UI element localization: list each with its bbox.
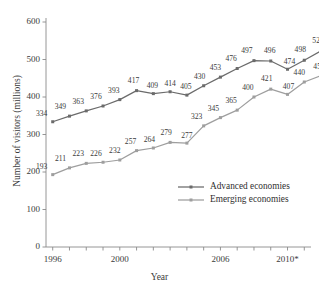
x-tick-2000: 2000 (95, 254, 145, 264)
point-label: 440 (288, 68, 310, 77)
point-label: 430 (189, 72, 211, 81)
point-label: 277 (176, 131, 198, 140)
point-label: 405 (175, 82, 197, 91)
y-tick-500: 500 (4, 54, 40, 64)
point-label: 497 (236, 46, 258, 55)
y-tick-100: 100 (4, 204, 40, 214)
point-label: 232 (104, 146, 126, 155)
x-tick-2006: 2006 (195, 254, 245, 264)
point-label: 453 (204, 63, 226, 72)
x-tick-1996: 1996 (28, 254, 78, 264)
x-tick-2010: 2010* (263, 254, 313, 264)
point-label: 279 (155, 128, 177, 137)
legend-label-advanced: Advanced economies (210, 181, 290, 191)
point-label: 498 (289, 45, 311, 54)
y-tick-600: 600 (4, 16, 40, 26)
point-label: 421 (256, 74, 278, 83)
y-tick-0: 0 (4, 241, 40, 251)
legend-symbols (178, 186, 204, 202)
point-label: 193 (31, 162, 53, 171)
point-label: 474 (279, 57, 301, 66)
point-label: 393 (103, 86, 125, 95)
point-label: 365 (220, 96, 242, 105)
line-chart-plot (0, 0, 319, 293)
y-tick-400: 400 (4, 91, 40, 101)
chart-figure: Number of visitors (millions) Year 01002… (0, 0, 319, 293)
point-label: 323 (186, 112, 208, 121)
x-axis-title: Year (0, 272, 319, 282)
point-label: 407 (278, 82, 300, 91)
y-tick-300: 300 (4, 129, 40, 139)
legend-label-emerging: Emerging economies (210, 194, 289, 204)
point-label: 496 (259, 46, 281, 55)
point-label: 400 (237, 83, 259, 92)
point-label: 457 (308, 62, 319, 71)
point-label: 523 (307, 36, 319, 45)
point-label: 476 (220, 54, 242, 63)
